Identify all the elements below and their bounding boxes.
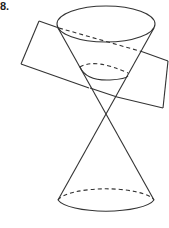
upper-cone-right-side xyxy=(106,28,154,114)
lower-cone-left-side xyxy=(58,114,106,200)
intersection-front xyxy=(80,67,128,80)
double-cone-diagram xyxy=(0,0,169,228)
intersection-back xyxy=(80,64,128,73)
lower-cone-right-side xyxy=(106,114,154,200)
upper-cone-rim xyxy=(57,6,155,42)
lower-cone-rim-back xyxy=(58,189,154,200)
lower-cone-rim-front xyxy=(58,200,154,211)
